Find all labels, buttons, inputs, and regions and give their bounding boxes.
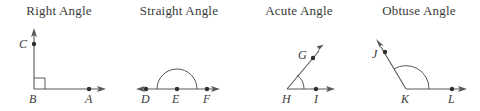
- point-label-g: G: [298, 48, 307, 63]
- point-dot-d: [144, 87, 148, 91]
- panel-right-angle: Right Angle C B A: [0, 0, 118, 111]
- right-angle-diagram: [0, 0, 118, 111]
- point-label-a: A: [85, 92, 92, 107]
- point-label-e: E: [172, 92, 179, 107]
- panel-straight-angle: Straight Angle D E F: [118, 0, 240, 111]
- point-dot-f: [205, 87, 209, 91]
- point-label-k: K: [401, 92, 409, 107]
- point-label-b: B: [29, 92, 36, 107]
- point-label-d: D: [141, 92, 150, 107]
- point-dot-g: [311, 56, 315, 60]
- right-angle-square-marker: [34, 78, 45, 89]
- point-dot-j: [383, 50, 387, 54]
- point-label-l: L: [448, 92, 455, 107]
- point-dot-e: [175, 87, 179, 91]
- point-label-f: F: [203, 92, 210, 107]
- point-label-j: J: [372, 47, 377, 62]
- panel-obtuse-angle: Obtuse Angle J K L: [358, 0, 480, 111]
- point-dot-i: [314, 87, 318, 91]
- arrowhead-hg: [317, 45, 325, 53]
- straight-angle-semicircle-marker: [157, 69, 197, 89]
- point-label-h: H: [282, 92, 291, 107]
- point-dot-l: [450, 87, 454, 91]
- angle-types-figure: Right Angle C B A Straight Angle: [0, 0, 480, 111]
- point-dot-c: [32, 42, 36, 46]
- acute-angle-arc-marker: [297, 75, 304, 89]
- panel-acute-angle: Acute Angle G H I: [240, 0, 358, 111]
- point-label-i: I: [314, 92, 318, 107]
- point-dot-a: [87, 87, 91, 91]
- point-label-c: C: [19, 37, 27, 52]
